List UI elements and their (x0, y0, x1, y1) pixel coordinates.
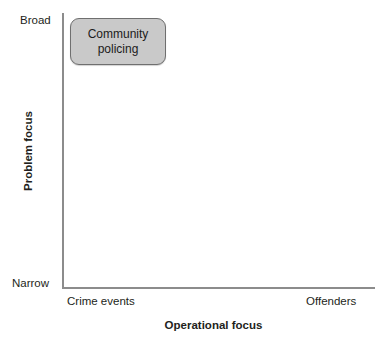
node-community-policing-label: Community policing (84, 27, 153, 57)
y-axis-line (62, 13, 64, 289)
x-axis-tick-crime-events: Crime events (67, 295, 135, 308)
x-axis-line (62, 287, 375, 289)
y-axis-title: Problem focus (18, 13, 38, 289)
node-community-policing: Community policing (70, 18, 166, 65)
node-label-line-1: Community (88, 27, 149, 41)
x-axis-tick-offenders: Offenders (306, 295, 356, 308)
node-label-line-2: policing (98, 42, 139, 56)
chart-figure: Broad Narrow Crime events Offenders Prob… (0, 0, 382, 351)
x-axis-title: Operational focus (0, 319, 382, 331)
